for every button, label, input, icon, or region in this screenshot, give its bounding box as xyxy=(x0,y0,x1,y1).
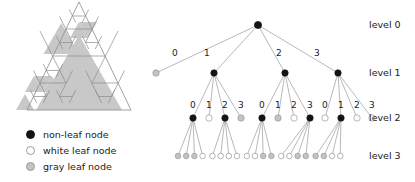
edge-label-l2-2-1: 1 xyxy=(275,100,281,110)
tree-edge xyxy=(193,73,214,118)
tree-node-gray xyxy=(260,153,266,159)
tree-edge xyxy=(262,118,271,156)
level-label-2: level 2 xyxy=(369,112,401,123)
tree-edge xyxy=(186,118,193,156)
tree-edge xyxy=(214,25,258,73)
tree-node-gray xyxy=(269,153,275,159)
tree-edge xyxy=(281,118,310,156)
tree-node-white xyxy=(206,115,212,121)
tree-node-white xyxy=(337,153,343,159)
tree-node-gray xyxy=(238,115,244,121)
tree-node-white xyxy=(252,153,258,159)
level-label-0: level 0 xyxy=(369,19,401,30)
tree-node-gray xyxy=(153,70,159,76)
tree-edge xyxy=(214,73,225,118)
tree-node-gray xyxy=(175,153,181,159)
edge-label-l2-2-3: 3 xyxy=(307,100,313,110)
tree-node-white xyxy=(218,153,224,159)
edge-label-l2-2-2: 2 xyxy=(291,100,297,110)
edge-label-l1-2: 2 xyxy=(276,48,282,58)
tree-diagram xyxy=(0,0,415,182)
edge-label-l2-3-3: 3 xyxy=(369,100,375,110)
figure-root: non-leaf node white leaf node gray leaf … xyxy=(0,0,415,182)
tree-node-black xyxy=(307,115,313,121)
tree-node-gray xyxy=(313,153,319,159)
tree-node-white xyxy=(291,115,297,121)
tree-node-black xyxy=(335,70,341,76)
edge-label-l1-1: 1 xyxy=(204,48,210,58)
tree-edge xyxy=(247,118,262,156)
edge-label-l2-2-0: 0 xyxy=(259,100,265,110)
tree-node-gray xyxy=(321,153,327,159)
tree-node-white xyxy=(244,153,250,159)
edge-label-l2-3-1: 1 xyxy=(338,100,344,110)
edge-label-l2-1-3: 3 xyxy=(238,100,244,110)
tree-nodes xyxy=(153,21,375,158)
tree-node-black xyxy=(211,70,217,76)
tree-node-gray xyxy=(303,153,309,159)
tree-edge xyxy=(316,118,341,156)
tree-node-black xyxy=(254,21,261,28)
tree-edge xyxy=(324,118,341,156)
tree-edge xyxy=(214,73,241,118)
tree-edge xyxy=(178,118,193,156)
edge-label-l2-1-0: 0 xyxy=(190,100,196,110)
tree-node-gray xyxy=(275,115,281,121)
tree-node-black xyxy=(338,115,344,121)
tree-node-white xyxy=(234,153,240,159)
tree-node-gray xyxy=(183,153,189,159)
tree-edge xyxy=(258,25,338,73)
edge-label-l2-1-1: 1 xyxy=(206,100,212,110)
edge-label-l2-3-0: 0 xyxy=(322,100,328,110)
tree-node-black xyxy=(282,70,288,76)
tree-node-black xyxy=(222,115,228,121)
tree-node-white xyxy=(287,153,293,159)
tree-node-gray xyxy=(295,153,301,159)
tree-node-white xyxy=(322,115,328,121)
tree-node-white xyxy=(354,115,360,121)
tree-edge xyxy=(332,118,341,156)
edge-label-l2-3-2: 2 xyxy=(354,100,360,110)
tree-edge xyxy=(209,73,214,118)
tree-edge xyxy=(262,118,263,156)
level-label-1: level 1 xyxy=(369,67,401,78)
tree-node-black xyxy=(190,115,196,121)
tree-edge xyxy=(285,73,310,118)
tree-node-white xyxy=(210,153,216,159)
tree-node-white xyxy=(200,153,206,159)
tree-node-white xyxy=(329,153,335,159)
edge-label-l1-0: 0 xyxy=(172,48,178,58)
tree-edge xyxy=(325,73,338,118)
edge-label-l1-3: 3 xyxy=(314,48,320,58)
tree-edge xyxy=(338,73,372,118)
tree-node-black xyxy=(259,115,265,121)
edge-label-l2-1-2: 2 xyxy=(222,100,228,110)
tree-edge xyxy=(285,73,294,118)
tree-node-gray xyxy=(192,153,198,159)
level-label-3: level 3 xyxy=(369,150,401,161)
tree-edges xyxy=(156,25,372,156)
tree-node-white xyxy=(226,153,232,159)
tree-node-white xyxy=(278,153,284,159)
tree-edge xyxy=(255,118,262,156)
tree-edge xyxy=(340,118,341,156)
